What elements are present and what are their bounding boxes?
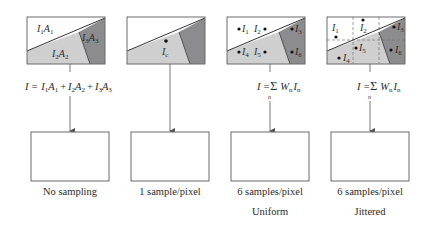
caption-one-sample: 1 sample/pixel [139,186,201,197]
caption-jittered: 6 samples/pixel [337,186,403,197]
output-pixel-box [31,132,109,181]
pixel-area-uniform [227,17,305,64]
caption-no-sampling: No sampling [43,186,98,197]
panel-uniform: I1 I2 I3 I4 I5 I6 I =ΣWnIn n 6 samples/p… [227,17,309,217]
output-pixel-box [231,132,309,181]
sampling-diagram: I1A1 I2A2 I3A3 I =I1A1+I2A2+I3A3 No samp… [0,0,433,230]
caption-uniform: 6 samples/pixel [237,186,303,197]
formula-weighted-sum: I =ΣWnIn [256,79,301,94]
output-pixel-box [331,132,409,181]
panel-one-sample: Ic 1 sample/pixel [127,17,209,197]
panel-jittered: I1 I2 I3 I4 I5 I6 I =ΣWnIn n 6 samples/p… [327,17,409,217]
svg-text:n: n [268,94,271,100]
output-pixel-box [131,132,209,181]
svg-text:n: n [368,94,371,100]
formula-area-weighted: I =I1A1+I2A2+I3A3 [24,81,112,94]
caption-uniform-type: Uniform [252,206,288,217]
panel-no-sampling: I1A1 I2A2 I3A3 I =I1A1+I2A2+I3A3 No samp… [24,17,112,197]
formula-weighted-sum: I =ΣWnIn [356,79,401,94]
sample-point [164,39,168,43]
caption-jittered-type: Jittered [355,206,387,217]
